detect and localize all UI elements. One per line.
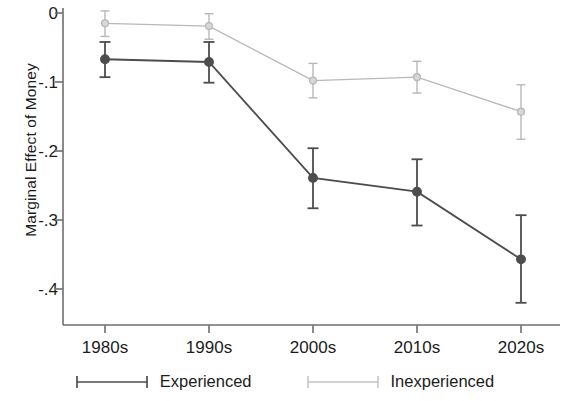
- x-tick-label-1990s: 1990s: [186, 338, 232, 358]
- axis-lines: [55, 8, 560, 325]
- data-point-marker: [413, 187, 422, 196]
- chart-legend: Experienced Inexperienced: [0, 372, 567, 391]
- data-point-marker: [101, 55, 110, 64]
- data-point-marker: [310, 77, 317, 84]
- legend-item-experienced: Experienced: [73, 372, 252, 391]
- x-tick-label-2020s: 2020s: [498, 338, 544, 358]
- legend-key-inexperienced-icon: [304, 374, 382, 390]
- data-point-marker: [414, 74, 421, 81]
- legend-label-experienced: Experienced: [160, 372, 252, 391]
- data-series-layer: [100, 11, 527, 303]
- data-point-marker: [205, 58, 214, 67]
- x-axis-ticks: [105, 325, 521, 333]
- x-tick-label-1980s: 1980s: [82, 338, 128, 358]
- x-tick-label-2010s: 2010s: [394, 338, 440, 358]
- data-point-marker: [102, 20, 109, 27]
- legend-key-experienced-icon: [73, 374, 151, 390]
- series-inexperienced: [101, 11, 526, 139]
- legend-label-inexperienced: Inexperienced: [391, 372, 495, 391]
- x-tick-label-2000s: 2000s: [290, 338, 336, 358]
- data-point-marker: [517, 255, 526, 264]
- chart-figure: Marginal Effect of Money 0 -.1 -.2 -.3 -…: [0, 0, 567, 401]
- data-point-marker: [206, 23, 213, 30]
- data-point-marker: [518, 108, 525, 115]
- legend-item-inexperienced: Inexperienced: [304, 372, 495, 391]
- data-point-marker: [309, 174, 318, 183]
